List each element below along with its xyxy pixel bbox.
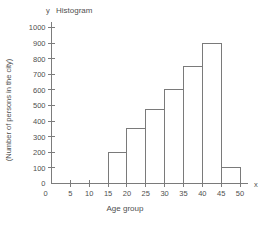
x-tick-label: 40 bbox=[198, 189, 206, 198]
histogram-bar bbox=[202, 43, 221, 183]
x-axis-title: Age group bbox=[107, 204, 144, 213]
histogram-bar bbox=[165, 90, 184, 184]
histogram-bar bbox=[221, 168, 240, 184]
x-axis-letter: x bbox=[254, 180, 258, 189]
x-tick-label: 50 bbox=[236, 189, 244, 198]
x-tick-label: 0 bbox=[43, 189, 47, 198]
y-tick-label: 700 bbox=[33, 70, 46, 79]
bars-group bbox=[108, 43, 240, 183]
histogram-bar bbox=[146, 109, 165, 183]
x-tick-label: 35 bbox=[179, 189, 187, 198]
x-tick-label: 10 bbox=[85, 189, 93, 198]
x-tick-label: 30 bbox=[160, 189, 168, 198]
x-tick-label: 15 bbox=[104, 189, 112, 198]
y-tick-label: 200 bbox=[33, 148, 46, 157]
x-axis-ticks: 05101520253035404550 bbox=[43, 180, 244, 198]
y-tick-label: 900 bbox=[33, 39, 46, 48]
histogram-bar bbox=[108, 152, 127, 183]
y-tick-label: 600 bbox=[33, 86, 46, 95]
y-tick-label: 0 bbox=[41, 179, 45, 188]
y-tick-label: 1000 bbox=[29, 23, 46, 32]
x-tick-label: 45 bbox=[217, 189, 225, 198]
y-axis-title: (Number of persons in the city) bbox=[4, 58, 13, 161]
x-tick-label: 5 bbox=[68, 189, 72, 198]
histogram-figure: Histogram y x (Number of persons in the … bbox=[0, 0, 268, 229]
x-tick-label: 25 bbox=[142, 189, 150, 198]
chart-title: Histogram bbox=[56, 6, 93, 15]
histogram-chart: Histogram y x (Number of persons in the … bbox=[0, 0, 268, 229]
y-tick-label: 800 bbox=[33, 55, 46, 64]
x-tick-label: 20 bbox=[123, 189, 131, 198]
y-tick-label: 100 bbox=[33, 164, 46, 173]
histogram-bar bbox=[183, 67, 202, 184]
y-tick-label: 400 bbox=[33, 117, 46, 126]
y-tick-label: 300 bbox=[33, 133, 46, 142]
histogram-bar bbox=[127, 129, 146, 184]
y-axis-letter: y bbox=[46, 6, 50, 15]
y-tick-label: 500 bbox=[33, 101, 46, 110]
